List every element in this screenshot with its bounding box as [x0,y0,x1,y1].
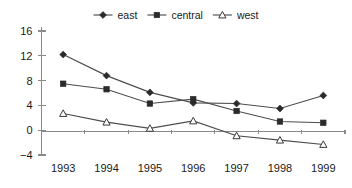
data-point-marker-square [277,119,282,124]
y-axis: 1612840−4 [20,25,46,161]
legend-item-east[interactable]: east [94,9,138,21]
y-tick-label: 16 [20,25,32,37]
x-tick-label: 1998 [268,162,292,174]
legend-item-west[interactable]: west [213,9,259,21]
data-point-marker-diamond [103,72,110,79]
legend-item-central[interactable]: central [147,9,203,21]
x-axis: 1993199419951996199719981999 [42,130,346,174]
data-series-layer [60,51,327,147]
data-point-marker-square [60,81,65,86]
x-tick-label: 1999 [311,162,335,174]
y-tick-label: 0 [26,124,32,136]
data-point-marker-square [321,120,326,125]
x-tick-label: 1993 [51,162,75,174]
data-point-marker-square [104,87,109,92]
line-chart: eastcentralwest 1612840−4 19931994199519… [0,0,352,188]
legend: eastcentralwest [94,9,259,21]
legend-label-east: east [118,9,138,21]
data-point-marker-diamond [100,12,107,19]
data-point-marker-diamond [60,51,67,58]
data-point-marker-diamond [233,100,240,107]
data-point-marker-triangle [60,110,67,117]
x-tick-label: 1995 [138,162,162,174]
series-markers-east [60,51,327,112]
data-point-marker-square [234,108,239,113]
series-markers-west [60,110,327,148]
data-point-marker-square [147,101,152,106]
x-axis-ticks [85,130,345,134]
y-tick-label: 12 [20,50,32,62]
data-point-marker-diamond [277,105,284,112]
legend-label-central: central [171,9,203,21]
x-tick-label: 1994 [94,162,118,174]
x-tick-label: 1997 [224,162,248,174]
data-point-marker-triangle [190,117,197,124]
x-axis-tick-labels: 1993199419951996199719981999 [51,162,336,174]
y-tick-label: 4 [26,99,32,111]
chart-canvas: eastcentralwest 1612840−4 19931994199519… [0,0,352,188]
data-point-marker-diamond [320,92,327,99]
y-tick-label: −4 [20,149,33,161]
x-tick-label: 1996 [181,162,205,174]
data-point-marker-square [191,97,196,102]
legend-label-west: west [236,9,259,21]
data-point-marker-square [154,12,159,17]
y-tick-label: 8 [26,75,32,87]
data-point-marker-diamond [146,89,153,96]
